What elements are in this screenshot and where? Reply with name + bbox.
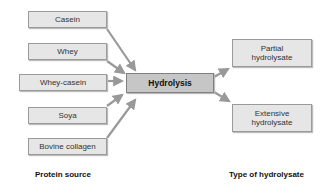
source-casein: Casein [28, 11, 107, 28]
source-whey-casein: Whey-casein [19, 74, 107, 91]
arrows [0, 0, 330, 191]
source-whey: Whey [28, 43, 107, 60]
process-hydrolysis: Hydrolysis [126, 73, 214, 93]
source-bovine-collagen: Bovine collagen [28, 138, 107, 155]
output-partial-hydrolysate: Partial hydrolysate [232, 39, 312, 67]
caption-protein-source: Protein source [35, 170, 91, 179]
source-soya: Soya [28, 107, 107, 124]
caption-type-of-hydrolysate: Type of hydrolysate [229, 170, 304, 179]
output-extensive-hydrolysate: Extensive hydrolysate [232, 104, 312, 132]
